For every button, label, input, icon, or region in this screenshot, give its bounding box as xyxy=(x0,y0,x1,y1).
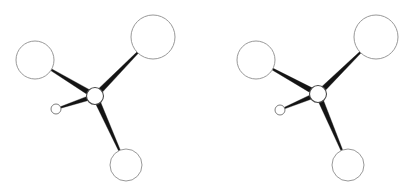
atom-substituent-upper-left xyxy=(16,41,54,79)
bond-C-A4 xyxy=(60,96,89,108)
bond-C-A4 xyxy=(283,95,312,109)
molecule-view-left xyxy=(16,15,175,181)
atom-substituent-upper-right xyxy=(131,15,175,59)
stereo-pair-canvas xyxy=(0,0,412,189)
atom-substituent-upper-left xyxy=(237,41,275,79)
atom-substituent-upper-right xyxy=(354,15,398,59)
bond-C-A2 xyxy=(98,51,139,92)
bond-C-A3 xyxy=(96,101,121,151)
atom-center xyxy=(87,88,104,105)
bond-C-A1 xyxy=(271,68,313,93)
atom-substituent-left-small xyxy=(275,105,285,115)
atom-substituent-left-small xyxy=(51,104,61,114)
molecule-stereo-pair-figure xyxy=(0,0,412,189)
bond-C-A2 xyxy=(321,51,361,91)
bond-C-A3 xyxy=(318,99,343,151)
atom-center xyxy=(310,86,327,103)
molecule-view-right xyxy=(237,15,398,181)
bond-C-A1 xyxy=(50,68,90,94)
atom-substituent-lower-right xyxy=(332,149,364,181)
atom-substituent-lower-right xyxy=(110,149,142,181)
